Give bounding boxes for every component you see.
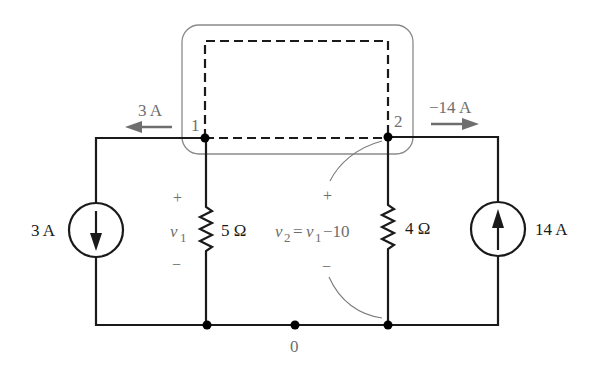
v1-plus-sign: +: [173, 189, 182, 206]
node-2-label: 2: [394, 112, 403, 131]
resistor-5-ohm-label: 5 Ω: [221, 221, 246, 240]
arrow-right-icon: [462, 118, 479, 130]
bottom-node-right-dot: [384, 321, 393, 330]
dashed-supernode-path: [205, 41, 388, 138]
v2-equals: =: [293, 222, 303, 241]
v2-subscript: 2: [284, 230, 291, 245]
v2-rhs-subscript: 1: [315, 230, 322, 245]
node-1-dot: [201, 134, 210, 143]
node-2-dot: [384, 133, 393, 142]
current-source-right: [471, 202, 525, 256]
v2-rhs-symbol: v: [306, 222, 314, 241]
supernode-outline: [182, 25, 413, 154]
bottom-wire: [96, 256, 498, 325]
v1-symbol: v: [170, 222, 178, 241]
ground-node-dot: [291, 321, 300, 330]
resistor-5-ohm: [200, 138, 212, 325]
current-source-left: [69, 203, 123, 257]
source-right-label: 14 A: [535, 220, 568, 239]
v1-subscript: 1: [180, 230, 187, 245]
current-arrow-right: [162, 118, 479, 130]
v1-minus-sign: −: [172, 256, 181, 273]
bottom-node-left-dot: [203, 321, 212, 330]
v2-minus-leader: [329, 277, 382, 318]
v2-plus-leader: [330, 141, 382, 181]
current-arrow-left: [125, 121, 172, 133]
v2-symbol: v: [275, 222, 283, 241]
circuit-diagram: 3 A −14 A 1 2 0 3 A 14 A 5 Ω 4 Ω + v 1 −…: [0, 0, 608, 375]
top-right-wire: [388, 137, 498, 202]
top-left-wire: [96, 138, 205, 203]
v2-plus-sign: +: [323, 187, 332, 204]
source-left-label: 3 A: [31, 221, 56, 240]
node-1-label: 1: [191, 116, 200, 135]
branch-current-left-label: 3 A: [138, 101, 163, 120]
resistor-4-ohm: [382, 137, 394, 325]
resistor-4-ohm-label: 4 Ω: [405, 219, 430, 238]
branch-current-right-label: −14 A: [429, 98, 472, 117]
arrow-left-icon: [125, 121, 142, 133]
v2-rhs-tail: −10: [323, 222, 350, 241]
v2-minus-sign: −: [322, 258, 331, 275]
ground-node-label: 0: [290, 337, 299, 356]
